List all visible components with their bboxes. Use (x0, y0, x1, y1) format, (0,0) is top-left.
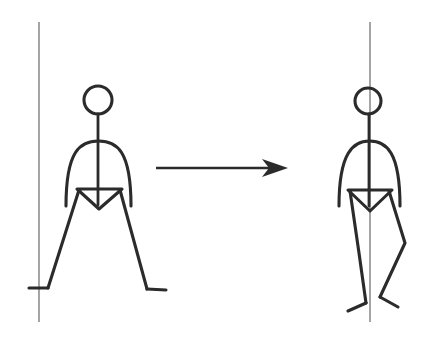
diagram-canvas (0, 0, 435, 361)
left-foot-far (147, 289, 166, 290)
posture-transition-diagram (0, 0, 435, 361)
